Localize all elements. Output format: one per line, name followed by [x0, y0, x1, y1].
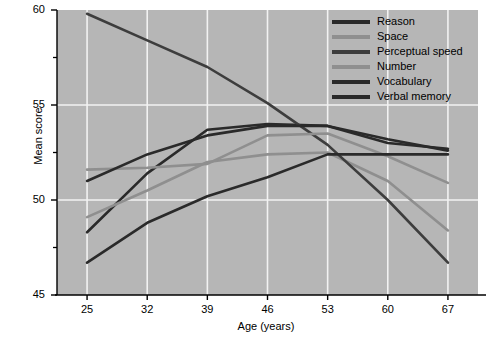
legend-swatch-icon: [332, 20, 370, 24]
legend-swatch-icon: [332, 50, 370, 54]
legend-item[interactable]: Perceptual speed: [332, 44, 463, 59]
legend-swatch-icon: [332, 95, 370, 99]
x-tick-label: 39: [187, 303, 227, 315]
legend-item[interactable]: Vocabulary: [332, 74, 463, 89]
x-tick-label: 46: [248, 303, 288, 315]
y-tick-label: 45: [15, 288, 45, 300]
x-axis-title: Age (years): [176, 320, 356, 332]
legend-item[interactable]: Reason: [332, 14, 463, 29]
legend-label: Vocabulary: [377, 74, 431, 89]
y-tick-label: 60: [15, 3, 45, 15]
legend-label: Space: [377, 29, 408, 44]
x-tick-label: 32: [127, 303, 167, 315]
legend-item[interactable]: Verbal memory: [332, 89, 463, 104]
legend-label: Number: [377, 59, 416, 74]
x-tick-label: 25: [67, 303, 107, 315]
legend-label: Reason: [377, 14, 415, 29]
x-tick-label: 67: [428, 303, 468, 315]
legend-label: Verbal memory: [377, 89, 451, 104]
legend-label: Perceptual speed: [377, 44, 463, 59]
line-chart: 60555045 25323946536067 Mean score Age (…: [0, 0, 492, 340]
y-axis-title: Mean score: [32, 76, 44, 196]
legend-swatch-icon: [332, 35, 370, 39]
legend-swatch-icon: [332, 80, 370, 84]
legend: ReasonSpacePerceptual speedNumberVocabul…: [332, 14, 463, 104]
x-tick-label: 53: [308, 303, 348, 315]
legend-swatch-icon: [332, 65, 370, 69]
legend-item[interactable]: Number: [332, 59, 463, 74]
legend-item[interactable]: Space: [332, 29, 463, 44]
x-tick-label: 60: [368, 303, 408, 315]
